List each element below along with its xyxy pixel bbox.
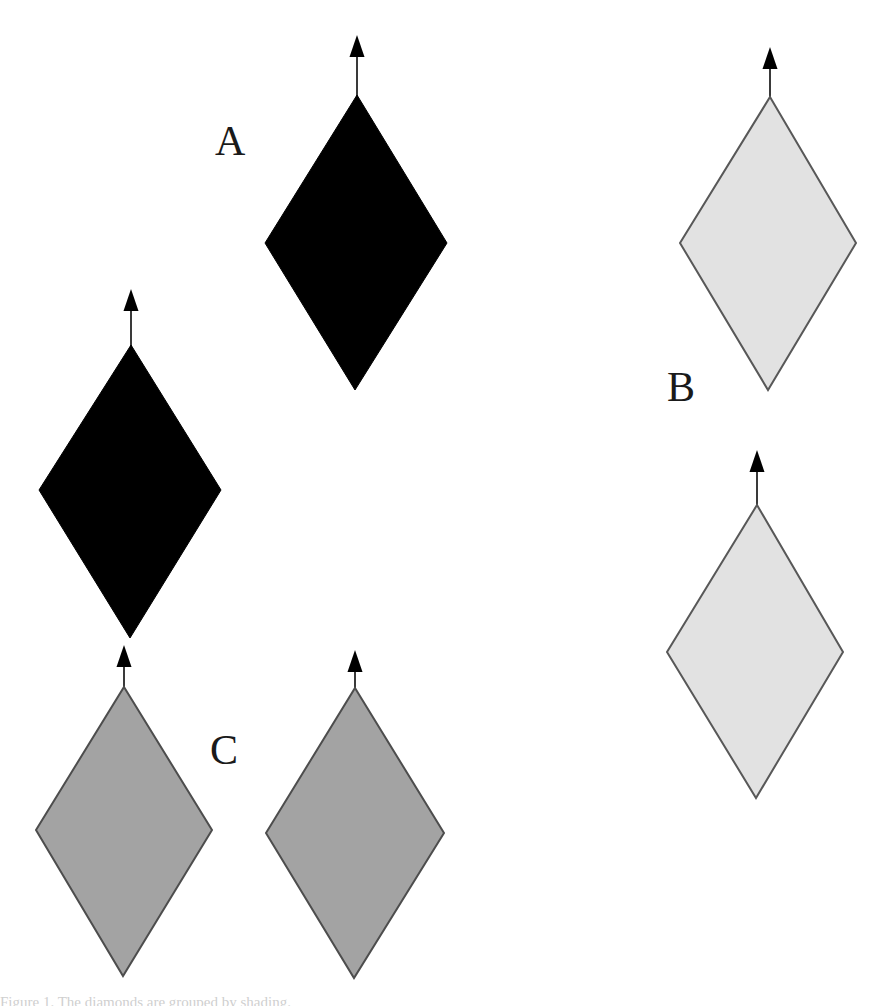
group-label-c: C bbox=[210, 729, 238, 771]
group-label-b: B bbox=[667, 366, 695, 408]
caption-sliver: Figure 1. The diamonds are grouped by sh… bbox=[0, 995, 893, 1006]
group-label-a: A bbox=[215, 120, 245, 162]
figure-canvas bbox=[0, 0, 893, 1006]
figure-root: A B C Figure 1. The diamonds are grouped… bbox=[0, 0, 893, 1006]
